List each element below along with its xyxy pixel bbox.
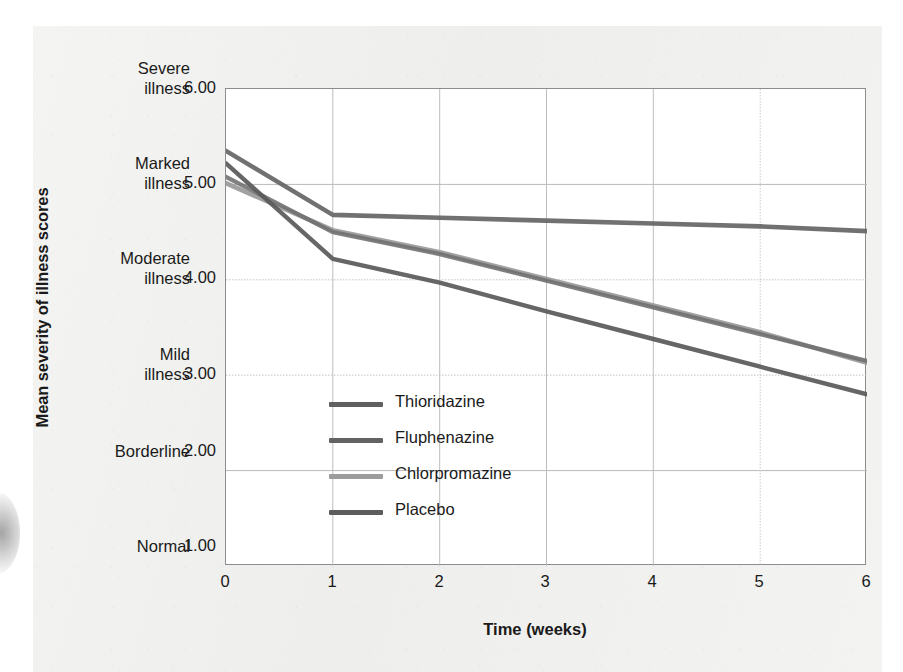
plot-area: Thioridazine Fluphenazine Chlorpromazine…: [225, 88, 866, 565]
x-tick-2: 2: [424, 572, 454, 591]
legend-item-placebo: Placebo: [329, 496, 589, 532]
legend-swatch-fluphenazine: [329, 438, 383, 443]
y-tick-4: 4.00: [164, 268, 216, 287]
scan-artifact-smudge: [0, 492, 20, 574]
x-tick-4: 4: [637, 572, 667, 591]
y-category-label-moderate-line1: Moderate: [60, 248, 190, 268]
y-category-label-mild-line1: Mild: [60, 344, 190, 364]
legend-label-thioridazine: Thioridazine: [395, 392, 485, 411]
y-tick-3: 3.00: [164, 364, 216, 383]
x-tick-6: 6: [851, 572, 881, 591]
legend-swatch-chlorpromazine: [329, 474, 383, 479]
legend-label-placebo: Placebo: [395, 500, 455, 519]
y-tick-5: 5.00: [164, 173, 216, 192]
y-tick-6: 6.00: [164, 78, 216, 97]
figure-root: Mean severity of illness scores Time (we…: [0, 0, 903, 672]
legend-swatch-placebo: [329, 510, 383, 515]
x-tick-1: 1: [317, 572, 347, 591]
legend-swatch-thioridazine: [329, 402, 383, 407]
legend-item-fluphenazine: Fluphenazine: [329, 424, 589, 460]
chart-legend: Thioridazine Fluphenazine Chlorpromazine…: [329, 388, 589, 532]
y-tick-1: 1.00: [164, 536, 216, 555]
legend-item-thioridazine: Thioridazine: [329, 388, 589, 424]
legend-label-fluphenazine: Fluphenazine: [395, 428, 494, 447]
x-tick-5: 5: [744, 572, 774, 591]
x-axis-title: Time (weeks): [195, 620, 875, 639]
x-tick-3: 3: [530, 572, 560, 591]
legend-label-chlorpromazine: Chlorpromazine: [395, 464, 511, 483]
legend-item-chlorpromazine: Chlorpromazine: [329, 460, 589, 496]
y-category-label-severe-line1: Severe: [60, 58, 190, 78]
y-category-label-marked-line1: Marked: [60, 153, 190, 173]
x-tick-0: 0: [210, 572, 240, 591]
y-axis-title: Mean severity of illness scores: [33, 178, 52, 438]
y-tick-2: 2.00: [164, 441, 216, 460]
